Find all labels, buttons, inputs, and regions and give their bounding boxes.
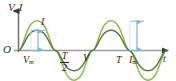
label-curve-voltage: V (83, 53, 89, 63)
ac-waveform-figure: V, I O Vm I V T 2 T Im t (0, 0, 176, 81)
label-half-period: T 2 (60, 51, 69, 73)
amplitude-arrow-vm (31, 31, 45, 51)
half-period-denominator: 2 (62, 63, 67, 73)
half-period-numerator: T (62, 51, 68, 61)
label-im: Im (129, 55, 137, 66)
waveform-plot (0, 0, 176, 81)
x-axis-label: t (163, 54, 166, 64)
y-axis-label: V, I (8, 2, 22, 13)
amplitude-arrow-im (130, 21, 144, 50)
label-period: T (116, 55, 122, 65)
label-curve-current: I (41, 17, 44, 27)
label-vm: Vm (23, 55, 34, 66)
origin-label: O (3, 44, 11, 55)
